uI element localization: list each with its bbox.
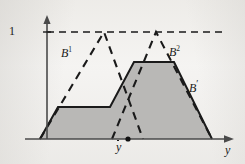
fuzzy-membership-figure: 1 B1 B2 B′ y y: [0, 0, 245, 164]
set-b2-label-superscript: 2: [176, 44, 180, 53]
set-bprime-label: B′: [189, 82, 198, 94]
ybar-label: y: [116, 141, 121, 153]
ybar-label-base: y: [116, 140, 121, 154]
aggregated-set-fill: [40, 62, 212, 139]
set-b2-label: B2: [169, 46, 180, 58]
set-b1-label-superscript: 1: [68, 45, 72, 54]
membership-one-label: 1: [9, 25, 15, 37]
y-axis-label: y: [225, 144, 230, 156]
horizontal-axis-arrowhead: [224, 135, 234, 143]
ybar-marker-dot: [125, 136, 130, 141]
set-bprime-label-prime: ′: [196, 78, 198, 89]
set-b1-label: B1: [61, 47, 72, 59]
vertical-axis-arrowhead: [43, 15, 50, 24]
plot-canvas: [0, 0, 245, 164]
ybar-overbar: [117, 140, 119, 141]
